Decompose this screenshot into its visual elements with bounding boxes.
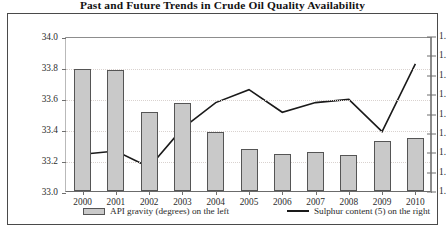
chart-title: Past and Future Trends in Crude Oil Qual… bbox=[0, 0, 445, 11]
y-axis-left-tick-label: 33.0 bbox=[14, 188, 58, 197]
y-axis-left-tick-mark bbox=[62, 162, 66, 163]
y-axis-left-tick-mark bbox=[62, 38, 66, 39]
bar-swatch-icon bbox=[83, 208, 105, 215]
chart-legend: API gravity (degrees) on the left Sulphu… bbox=[65, 204, 437, 220]
x-axis-tick-mark bbox=[149, 191, 150, 195]
legend-label-sulphur-content: Sulphur content (5) on the right bbox=[314, 206, 430, 216]
y-axis-right-tick-mark bbox=[427, 153, 436, 154]
x-axis-tick-mark bbox=[382, 191, 383, 195]
x-axis-tick-mark bbox=[415, 191, 416, 195]
x-axis-tick-mark bbox=[116, 191, 117, 195]
y-axis-left-tick-mark bbox=[62, 69, 66, 70]
x-axis-tick-mark bbox=[182, 191, 183, 195]
legend-label-api-gravity: API gravity (degrees) on the left bbox=[110, 206, 229, 216]
y-axis-right-tick-label: 1. bbox=[439, 129, 446, 138]
y-axis-left-tick-label: 33.2 bbox=[14, 157, 58, 166]
y-axis-left-tick-label: 33.4 bbox=[14, 126, 58, 135]
bar bbox=[107, 70, 124, 191]
y-axis-right-tick-mark bbox=[427, 75, 436, 76]
x-axis-tick-mark bbox=[216, 191, 217, 195]
x-axis-tick-mark bbox=[83, 191, 84, 195]
x-axis-tick-mark bbox=[316, 191, 317, 195]
y-axis-left-tick-mark bbox=[62, 100, 66, 101]
y-axis-right-tick-label: 1. bbox=[439, 71, 446, 80]
bar bbox=[340, 155, 357, 191]
y-axis-right-tick-mark bbox=[427, 192, 436, 193]
chart-outer-frame: 33.033.233.433.633.834.02000200120022003… bbox=[7, 13, 438, 225]
footer-note bbox=[6, 230, 306, 238]
y-axis-right-tick-label: 1. bbox=[439, 90, 446, 99]
bar bbox=[274, 154, 291, 191]
bar bbox=[74, 69, 91, 191]
bar bbox=[407, 138, 424, 191]
line-swatch-icon bbox=[287, 210, 309, 212]
y-axis-left-tick-label: 33.8 bbox=[14, 64, 58, 73]
y-axis-right-tick-mark bbox=[427, 172, 436, 173]
x-axis-tick-mark bbox=[282, 191, 283, 195]
y-axis-right-tick-mark bbox=[427, 37, 436, 38]
bar bbox=[307, 152, 324, 191]
y-axis-right-tick-label: 1. bbox=[439, 110, 446, 119]
y-axis-right-tick-label: 1. bbox=[439, 149, 446, 158]
legend-item-api-gravity: API gravity (degrees) on the left bbox=[83, 204, 229, 218]
bar bbox=[141, 112, 158, 191]
bar bbox=[174, 103, 191, 191]
y-axis-left-tick-mark bbox=[62, 131, 66, 132]
legend-item-sulphur-content: Sulphur content (5) on the right bbox=[287, 204, 430, 218]
right-axis: 1.1.1.1.1.1.1.1.1. bbox=[431, 37, 432, 193]
y-axis-right-tick-mark bbox=[427, 133, 436, 134]
bar bbox=[241, 149, 258, 191]
plot-area: 33.033.233.433.633.834.02000200120022003… bbox=[65, 37, 431, 192]
y-axis-left-tick-label: 33.6 bbox=[14, 95, 58, 104]
y-axis-right-tick-mark bbox=[427, 95, 436, 96]
y-axis-left-tick-mark bbox=[62, 193, 66, 194]
bar bbox=[374, 141, 391, 191]
y-axis-right-tick-mark bbox=[427, 114, 436, 115]
y-axis-right-tick-mark bbox=[427, 56, 436, 57]
y-axis-left-tick-label: 34.0 bbox=[14, 33, 58, 42]
x-axis-tick-mark bbox=[349, 191, 350, 195]
y-axis-right-tick-label: 1. bbox=[439, 32, 446, 41]
y-axis-right-tick-label: 1. bbox=[439, 187, 446, 196]
bar bbox=[207, 132, 224, 191]
x-axis-tick-mark bbox=[249, 191, 250, 195]
y-axis-right-tick-label: 1. bbox=[439, 52, 446, 61]
y-axis-right-tick-label: 1. bbox=[439, 168, 446, 177]
